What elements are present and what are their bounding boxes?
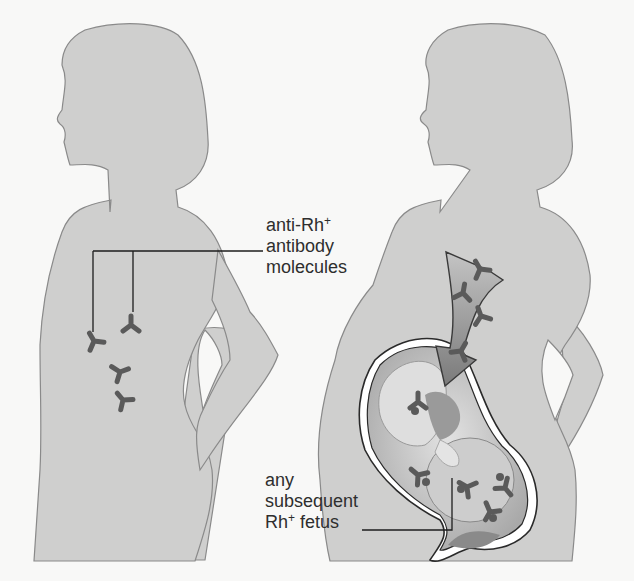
fetus-label-line1: any xyxy=(265,470,358,491)
left-mother-silhouette xyxy=(34,24,278,561)
rh-incompatibility-diagram: anti-Rh+ antibody molecules any subseque… xyxy=(0,0,634,581)
rh-plus-superscript: + xyxy=(324,214,331,228)
fetus-label-rh: Rh xyxy=(265,512,288,532)
antibody-label-line2: antibody xyxy=(266,236,347,257)
antibody-label: anti-Rh+ antibody molecules xyxy=(266,215,347,278)
antibody-label-line3: molecules xyxy=(266,257,347,278)
rh-plus-superscript: + xyxy=(288,511,295,525)
antibody-label-line1: anti-Rh xyxy=(266,215,324,235)
fetus-label: any subsequent Rh+ fetus xyxy=(265,470,358,533)
fetus-label-rest: fetus xyxy=(295,512,339,532)
fetus-label-line2: subsequent xyxy=(265,491,358,512)
